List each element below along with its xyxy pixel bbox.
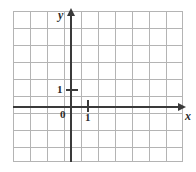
gridline-horizontal [13,45,183,46]
y-axis-tick-mark [66,89,78,91]
gridline-horizontal [13,28,183,29]
gridline-horizontal [13,161,183,162]
gridline-vertical [166,11,167,162]
gridline-vertical [182,11,183,162]
gridline-vertical [132,11,133,162]
gridline-vertical [30,11,31,162]
y-axis-arrow-icon [67,8,75,16]
y-axis-line [70,14,72,162]
gridline-vertical [115,11,116,162]
origin-label: 0 [60,109,66,120]
gridline-vertical [98,11,99,162]
gridline-horizontal [13,147,183,148]
gridline-horizontal [13,96,183,97]
x-axis-tick-label-1: 1 [85,112,91,123]
gridline-horizontal [13,11,183,12]
y-axis-label: y [58,9,63,21]
gridline-vertical [81,11,82,162]
gridline-vertical [149,11,150,162]
gridline-horizontal [13,62,183,63]
gridline-vertical [64,11,65,162]
x-axis-line [13,106,181,108]
gridline-horizontal [13,113,183,114]
gridline-vertical [47,11,48,162]
gridline-horizontal [13,79,183,80]
coordinate-plane-figure: y x 0 1 1 [0,0,196,172]
x-axis-label: x [185,110,191,122]
grid-area [13,11,183,162]
gridline-horizontal [13,130,183,131]
gridline-vertical [13,11,14,162]
y-axis-tick-label-1: 1 [57,84,63,95]
